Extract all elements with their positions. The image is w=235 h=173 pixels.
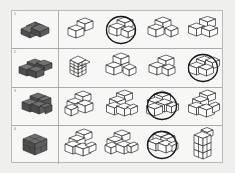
option-cell[interactable] [182, 126, 223, 164]
cube-figure-option-c [146, 131, 178, 159]
cube-figure-option-c [147, 55, 177, 81]
option-cell[interactable] [182, 88, 223, 125]
cube-figure-option-b [106, 17, 136, 43]
option-cell[interactable] [141, 49, 182, 86]
cube-figure-option-c [145, 92, 178, 120]
table-row: 4 [12, 126, 222, 164]
options-group [59, 49, 222, 86]
option-cell[interactable] [141, 126, 182, 164]
option-cell[interactable] [182, 11, 223, 48]
cube-figure-option-d [186, 17, 219, 43]
table-row: 2 [12, 49, 222, 87]
cube-figure-option-a [65, 17, 95, 43]
cube-figure-option-a [67, 53, 93, 83]
cube-figure-option-a [64, 92, 96, 120]
reference-figure-cell [12, 11, 58, 48]
options-group [59, 126, 222, 164]
options-group [59, 88, 222, 125]
cube-figure-option-d [186, 92, 219, 120]
option-cell[interactable] [59, 126, 100, 164]
reference-figure-cell [12, 88, 58, 125]
option-cell[interactable] [100, 11, 141, 48]
option-cell[interactable] [182, 49, 223, 86]
dark-cube-reference-row-4 [18, 131, 52, 159]
reference-figure-cell [12, 49, 58, 86]
dark-cube-reference-row-3 [17, 93, 53, 119]
cube-figure-option-a [64, 131, 96, 159]
reference-figure-cell [12, 126, 58, 164]
table-row: 3 [12, 88, 222, 126]
option-cell[interactable] [59, 49, 100, 86]
option-cell[interactable] [59, 11, 100, 48]
table-row: 1 [12, 11, 222, 49]
cube-figure-option-b [105, 54, 137, 82]
cube-figure-option-b [104, 92, 137, 120]
option-cell[interactable] [59, 88, 100, 125]
dark-cube-reference-row-1 [17, 19, 53, 41]
option-cell[interactable] [100, 49, 141, 86]
option-cell[interactable] [100, 126, 141, 164]
cube-figure-option-c [146, 17, 178, 43]
cube-figure-option-b [104, 131, 138, 159]
cube-figure-option-d [186, 55, 219, 81]
option-cell[interactable] [141, 88, 182, 125]
options-group [59, 11, 222, 48]
option-cell[interactable] [100, 88, 141, 125]
option-cell[interactable] [141, 11, 182, 48]
cube-figure-option-d [191, 129, 215, 161]
worksheet-table: 1 [11, 10, 223, 163]
dark-cube-reference-row-2 [16, 57, 54, 79]
